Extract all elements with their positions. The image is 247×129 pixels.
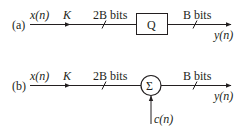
side-input-signal-label: c(n) (154, 113, 173, 125)
a-input-bits-label: 2B bits (93, 9, 127, 21)
b-input-signal-label: x(n) (30, 70, 49, 82)
a-diagram-label: (a) (12, 19, 25, 31)
a-input-signal-label: x(n) (30, 9, 49, 21)
b-output-signal-label: y(n) (214, 90, 233, 102)
summer-sigma-icon: Σ (146, 80, 153, 92)
b-output-bits-label: B bits (183, 70, 211, 82)
b-input-bits-label: 2B bits (93, 70, 127, 82)
a-rate-label: K (63, 9, 71, 21)
b-rate-label: K (63, 70, 71, 82)
b-diagram-label: (b) (12, 80, 26, 92)
a-output-signal-label: y(n) (214, 29, 233, 41)
quantizer-label: Q (147, 19, 156, 31)
a-output-bits-label: B bits (183, 9, 211, 21)
